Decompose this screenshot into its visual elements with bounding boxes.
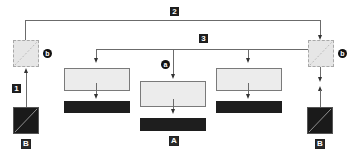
right-up-link xyxy=(320,90,321,107)
path-3-arrow-center-icon xyxy=(171,74,175,79)
source-left xyxy=(13,107,39,134)
unit-right-box xyxy=(216,68,282,91)
unit-left-arrow-icon xyxy=(94,94,98,99)
diagonal-icon xyxy=(308,108,332,133)
path-2-label: 2 xyxy=(170,7,179,16)
unit-left-bar xyxy=(64,101,130,113)
node-b-right-label: b xyxy=(338,49,347,58)
unit-center-bar xyxy=(140,118,206,131)
unit-right-arrow-icon xyxy=(246,94,250,99)
diagonal-icon xyxy=(309,41,333,66)
path-3-drop-center xyxy=(173,49,174,77)
path-1-arrow-icon xyxy=(24,68,28,73)
source-b-left-label: B xyxy=(21,139,31,149)
right-down-arrow-icon xyxy=(318,77,322,82)
path-3-arrow-right-icon xyxy=(246,58,250,63)
path-1-label: 1 xyxy=(12,84,21,93)
unit-right-bar xyxy=(216,101,282,113)
diagonal-icon xyxy=(14,41,38,66)
path-3-arrow-left-icon xyxy=(94,58,98,63)
path-2-line xyxy=(25,20,320,21)
node-a-label: a xyxy=(161,60,170,69)
unit-center-arrow-icon xyxy=(171,109,175,114)
unit-left-box xyxy=(64,68,130,91)
node-b-left-label: b xyxy=(43,49,52,58)
diagonal-icon xyxy=(14,108,38,133)
source-b-right-label: B xyxy=(315,139,325,149)
splitter-right xyxy=(308,40,334,67)
path-3-label: 3 xyxy=(199,34,208,43)
target-a-label: A xyxy=(169,136,179,146)
splitter-left xyxy=(13,40,39,67)
path-3-line xyxy=(96,49,308,50)
path-2-left-riser xyxy=(25,20,26,41)
path-1-line xyxy=(26,72,27,108)
source-right xyxy=(307,107,333,134)
